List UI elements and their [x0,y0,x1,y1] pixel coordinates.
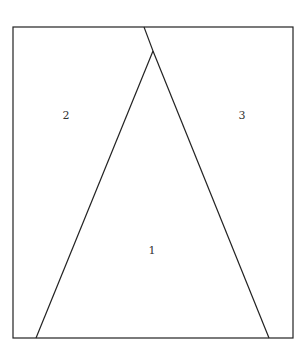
partition-diagram: 1 2 3 [0,0,302,354]
region-label-1: 1 [149,244,156,257]
left-triangle-edge [36,51,153,338]
right-triangle-edge [153,51,269,338]
region-label-2: 2 [63,109,70,122]
top-segment [144,27,153,51]
region-label-3: 3 [239,109,246,122]
